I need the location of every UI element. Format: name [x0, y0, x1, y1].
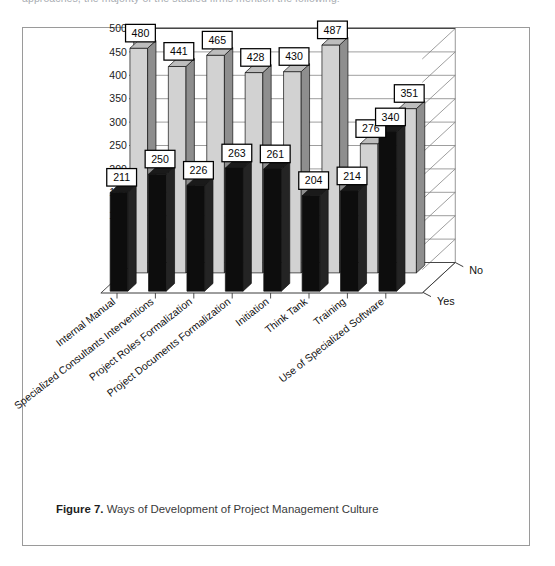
x-axis-category-labels: Internal ManualSpecialized Consultants I…	[12, 293, 386, 411]
value-label-text: 261	[266, 148, 284, 160]
bar-yes-6	[341, 183, 367, 291]
value-label-yes-4: 261	[260, 145, 290, 163]
bar-side-face	[243, 160, 251, 291]
bar-yes-2	[187, 178, 213, 291]
value-label-text: 250	[151, 153, 169, 165]
value-label-yes-2: 226	[184, 162, 214, 180]
depth-axis-label-yes: Yes	[437, 295, 455, 307]
value-label-text: 263	[228, 147, 246, 159]
value-label-no-0: 480	[126, 24, 156, 42]
bar-yes-7	[379, 124, 405, 291]
value-label-text: 441	[170, 45, 188, 57]
depth-axis-label-no: No	[469, 264, 483, 276]
figure-caption-text: Ways of Development of Project Managemen…	[107, 503, 379, 515]
y-tick-label: 350	[109, 92, 127, 104]
value-label-text: 340	[382, 111, 400, 123]
bar-front-face	[225, 168, 243, 291]
gridline-side-300	[422, 122, 455, 153]
bar-yes-5	[302, 188, 328, 291]
y-tick-label: 450	[109, 46, 127, 58]
bar-front-face	[341, 191, 359, 291]
gridline-side-400	[422, 75, 455, 106]
bar-side-face	[166, 166, 174, 291]
gridline-side-200	[422, 169, 455, 200]
bar-yes-4	[264, 161, 290, 291]
x-category-label-4: Initiation	[234, 296, 271, 329]
gridline-side-450	[422, 52, 455, 83]
bar-side-face	[128, 185, 136, 291]
three-d-bar-chart: 050100150200250300350400450500 Internal …	[0, 0, 555, 566]
value-label-text: 487	[324, 24, 342, 36]
value-label-yes-0: 211	[107, 169, 137, 187]
bar-front-face	[149, 174, 167, 291]
value-label-text: 204	[305, 174, 323, 186]
value-label-no-1: 441	[164, 43, 194, 61]
value-label-yes-1: 250	[145, 150, 175, 168]
y-tick-label: 500	[109, 22, 127, 34]
value-label-yes-3: 263	[222, 144, 252, 162]
depth-tick-mark-0	[423, 292, 431, 296]
bar-front-face	[302, 196, 320, 291]
bar-side-face	[281, 161, 289, 291]
gridline-side-500	[422, 29, 455, 60]
bar-side-face	[416, 101, 424, 273]
bar-yes-1	[149, 166, 175, 291]
x-category-label-5: Think Tank	[263, 295, 310, 335]
y-tick-label: 300	[109, 116, 127, 128]
figure-caption-label: Figure 7.	[56, 503, 103, 515]
y-tick-label: 400	[109, 69, 127, 81]
bar-side-face	[397, 124, 405, 291]
value-label-no-5: 487	[318, 21, 348, 38]
bar-front-face	[187, 185, 205, 291]
value-label-yes-6: 214	[337, 167, 367, 185]
value-label-text: 214	[343, 170, 361, 182]
value-label-text: 430	[285, 50, 303, 62]
value-label-no-4: 430	[279, 48, 309, 66]
gridline-side-350	[422, 99, 455, 130]
gridline-side-100	[422, 216, 455, 247]
bar-side-face	[358, 183, 366, 291]
y-tick-label: 250	[109, 139, 127, 151]
depth-tick-mark-1	[455, 263, 463, 267]
value-label-yes-5: 204	[299, 172, 329, 190]
value-label-text: 226	[190, 164, 208, 176]
depth-axis-labels: YesNo	[423, 263, 483, 308]
value-label-text: 211	[113, 171, 130, 183]
bar-front-face	[110, 192, 128, 291]
figure-page: approaches, the majority of the studied …	[0, 0, 555, 566]
bar-yes-0	[110, 185, 136, 291]
bar-front-face	[379, 132, 397, 291]
bar-front-face	[264, 169, 282, 291]
value-label-no-2: 465	[202, 31, 232, 49]
gridline-side-250	[422, 146, 455, 177]
bar-side-face	[205, 178, 213, 291]
gridline-side-50	[422, 239, 455, 270]
value-label-text: 480	[132, 27, 150, 39]
figure-caption: Figure 7. Ways of Development of Project…	[56, 503, 378, 515]
gridline-side-150	[422, 192, 455, 223]
bar-yes-3	[225, 160, 251, 291]
depth-axis-line	[422, 263, 455, 294]
x-category-label-1: Specialized Consultants Interventions	[12, 296, 155, 411]
value-label-text: 351	[400, 87, 418, 99]
value-label-no-3: 428	[241, 49, 271, 67]
value-label-no-7: 351	[394, 85, 424, 103]
value-label-text: 428	[247, 51, 265, 63]
x-category-label-6: Training	[312, 296, 348, 328]
value-label-text: 465	[208, 34, 226, 46]
value-label-yes-7: 340	[376, 108, 406, 126]
bar-side-face	[320, 188, 328, 291]
